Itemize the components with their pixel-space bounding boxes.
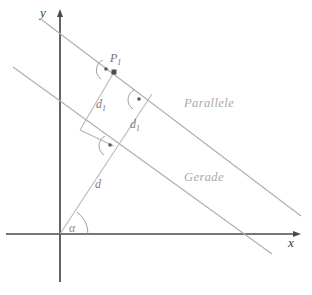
diagram-canvas bbox=[0, 0, 312, 295]
gerade-label: Gerade bbox=[184, 171, 224, 184]
parallele-line bbox=[42, 20, 301, 216]
geometry-diagram: y x P1 d1 d1 d Parallele Gerade α bbox=[0, 0, 312, 295]
right-angle-marker-lower bbox=[99, 136, 112, 155]
point-p1-label: P1 bbox=[110, 52, 121, 67]
y-axis-arrowhead bbox=[57, 9, 63, 17]
distance-d1-left-label: d1 bbox=[96, 98, 106, 113]
y-axis-label: y bbox=[40, 6, 46, 19]
parallele-label: Parallele bbox=[184, 97, 234, 110]
distance-d-label: d bbox=[95, 178, 101, 190]
distance-d1-right-subscript: 1 bbox=[136, 124, 140, 133]
axes-group bbox=[6, 9, 301, 282]
x-axis-arrowhead bbox=[293, 231, 301, 237]
alpha-angle-arc bbox=[77, 212, 88, 234]
x-axis-label: x bbox=[288, 236, 294, 249]
distance-d1-right-label: d1 bbox=[130, 118, 140, 133]
distance-d1-left-subscript: 1 bbox=[102, 104, 106, 113]
p1-point-marker bbox=[112, 70, 117, 75]
origin-perpendicular-ray bbox=[60, 94, 152, 234]
point-p1-subscript: 1 bbox=[117, 58, 121, 67]
alpha-angle-label: α bbox=[69, 222, 75, 234]
